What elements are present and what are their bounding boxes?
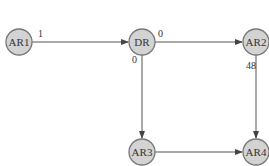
node-label-dr: DR (134, 36, 150, 48)
node-ar2: AR2 (243, 29, 269, 55)
node-label-ar4: AR4 (246, 146, 267, 158)
edge-label-ar2-ar4: 48 (246, 60, 256, 71)
edge-label-ar1-dr: 1 (38, 28, 43, 39)
node-label-ar3: AR3 (132, 146, 153, 158)
node-ar3: AR3 (129, 139, 155, 165)
edge-label-dr-ar2: 0 (158, 28, 163, 39)
edge-label-dr-ar3: 0 (132, 54, 137, 65)
node-label-ar2: AR2 (246, 36, 267, 48)
graph-diagram: 1 0 0 48 AR1 DR AR2 AR3 AR4 (0, 0, 269, 166)
node-ar4: AR4 (243, 139, 269, 165)
node-dr: DR (129, 29, 155, 55)
node-ar1: AR1 (6, 29, 32, 55)
node-label-ar1: AR1 (9, 36, 30, 48)
